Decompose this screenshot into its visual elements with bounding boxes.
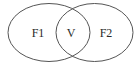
intersection-v-label: V	[67, 26, 76, 40]
set-f2-label: F2	[100, 26, 113, 40]
set-f1-label: F1	[32, 26, 45, 40]
set-f1-ellipse	[8, 4, 90, 62]
venn-diagram: F1 V F2	[0, 0, 140, 65]
